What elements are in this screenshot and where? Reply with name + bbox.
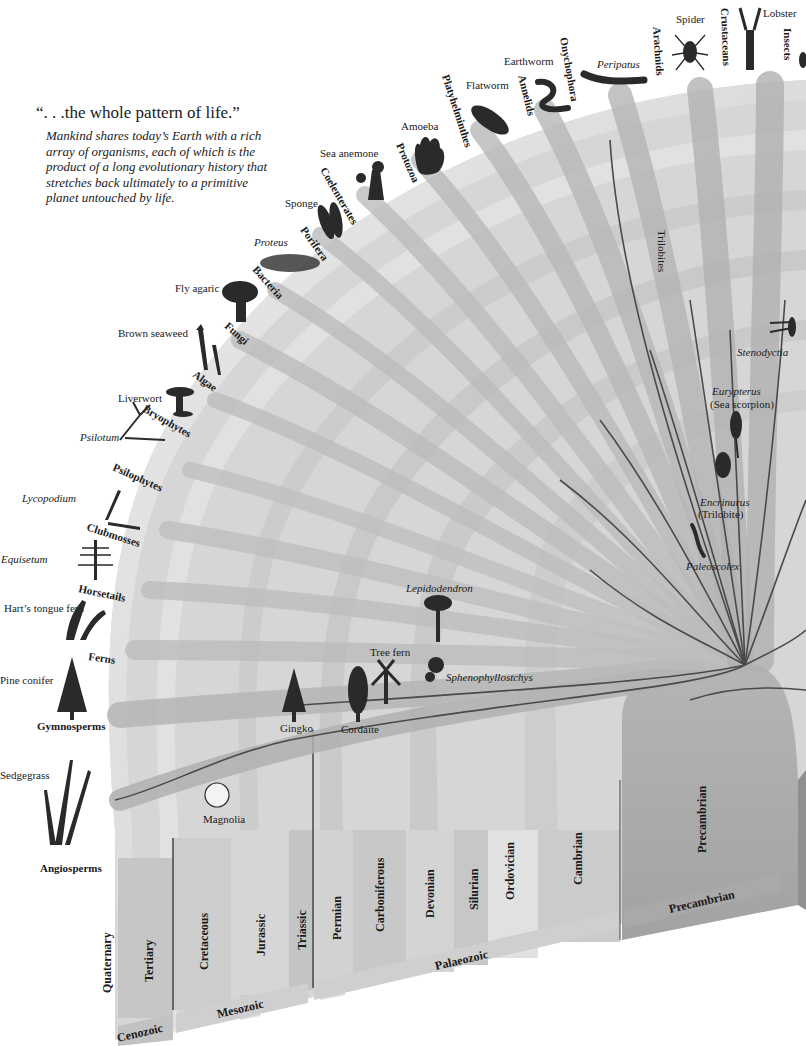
label-sphenophyllostchys: Sphenophyllostchys <box>446 671 533 683</box>
label-lycopodium: Lycopodium <box>21 492 76 504</box>
lobster-icon <box>740 8 760 70</box>
label-paleoscolex: Paleoscolex <box>685 560 739 572</box>
label-equisetum: Equisetum <box>0 553 47 565</box>
label-amoeba: Amoeba <box>401 120 438 132</box>
proteus-icon <box>260 254 320 272</box>
label-magnolia: Magnolia <box>203 813 245 825</box>
period-precambrian: Precambrian <box>695 786 709 853</box>
group-crustaceans: Crustaceans <box>719 8 733 67</box>
insect-icon <box>799 52 806 68</box>
period-quaternary: Quaternary <box>100 932 114 993</box>
period-permian: Permian <box>330 896 344 940</box>
label-earthworm: Earthworm <box>504 55 554 67</box>
label-fly-agaric: Fly agaric <box>175 282 219 294</box>
label-trilobite-note: (Trilobite) <box>698 508 744 521</box>
label-gingko: Gingko <box>280 722 314 734</box>
label-trilobites: Trilobites <box>656 230 668 272</box>
label-brown-seaweed: Brown seaweed <box>118 327 188 339</box>
group-ferns: Ferns <box>88 650 117 666</box>
label-lobster: Lobster <box>763 7 797 19</box>
label-lepidodendron: Lepidodendron <box>405 582 473 594</box>
label-sea-anemone: Sea anemone <box>320 147 378 159</box>
label-psilotum: Psilotum <box>79 431 119 443</box>
group-onychophora: Onychophora <box>558 36 581 102</box>
label-eurypterus: Eurypterus <box>711 385 761 397</box>
group-angiosperms: Angiosperms <box>40 862 102 874</box>
label-cordaite: Cordaite <box>341 723 379 735</box>
equisetum-icon <box>78 540 113 580</box>
period-ordovician: Ordovician <box>503 842 517 900</box>
label-liverwort: Liverwort <box>118 392 162 404</box>
label-pine-conifer: Pine conifer <box>0 674 54 686</box>
group-annelids: Annelids <box>516 74 538 118</box>
label-proteus: Proteus <box>253 236 288 248</box>
magnolia-icon <box>205 783 229 807</box>
group-arachnids: Arachnids <box>651 26 666 76</box>
period-triassic: Triassic <box>295 910 309 950</box>
label-tree-fern: Tree fern <box>370 646 411 658</box>
label-harts-tongue-fern: Hart’s tongue fern <box>4 602 85 614</box>
evolution-fan-diagram: Angiosperms Gymnosperms Ferns Horsetails… <box>0 0 806 1046</box>
period-jurassic: Jurassic <box>254 913 268 956</box>
group-insects: Insects <box>782 28 794 61</box>
pine-conifer-icon <box>57 657 87 720</box>
period-cambrian: Cambrian <box>571 832 585 885</box>
amoeba-icon <box>415 137 444 175</box>
spider-icon <box>672 35 708 70</box>
label-sea-scorpion: (Sea scorpion) <box>710 398 774 411</box>
label-flatworm: Flatworm <box>466 79 509 91</box>
label-spider: Spider <box>676 13 705 25</box>
sedgegrass-icon <box>44 760 91 845</box>
period-cretaceous: Cretaceous <box>197 913 211 970</box>
period-silurian: Silurian <box>467 868 481 910</box>
label-peripatus: Peripatus <box>596 58 640 70</box>
period-devonian: Devonian <box>423 869 437 918</box>
period-carboniferous: Carboniferous <box>373 857 387 932</box>
period-tertiary: Tertiary <box>142 940 156 982</box>
peripatus-icon <box>584 74 644 81</box>
group-gymnosperms: Gymnosperms <box>37 720 106 732</box>
label-sponge: Sponge <box>285 197 318 209</box>
label-sedgegrass: Sedgegrass <box>0 769 50 781</box>
label-encrinurus: Encrinurus <box>699 496 750 508</box>
label-stenodyctia: Stenodyctia <box>737 346 789 358</box>
encrinurus-icon <box>715 452 731 478</box>
